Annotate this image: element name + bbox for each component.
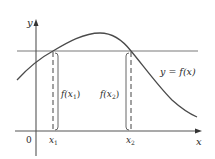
f-x1-bracket [55, 53, 58, 130]
y-axis-arrow-icon [34, 19, 39, 26]
origin-label: 0 [26, 135, 32, 145]
f-x1-label: f(x1) [60, 89, 80, 100]
x-axis-arrow-icon [195, 129, 202, 134]
function-graph: y x 0 x1 x2 f(x1) f(x2) y = f(x) [0, 0, 215, 159]
x1-tick-label: x1 [49, 135, 58, 146]
y-axis-label: y [26, 17, 33, 28]
f-x2-label: f(x2) [99, 89, 119, 100]
x2-tick-label: x2 [126, 135, 135, 146]
f-x2-bracket [126, 53, 129, 130]
x-axis-label: x [196, 136, 202, 147]
curve-label: y = f(x) [159, 66, 196, 77]
